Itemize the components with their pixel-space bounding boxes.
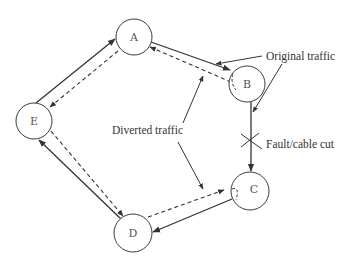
diverted-a-e [50,51,118,107]
node-b: B [229,66,265,102]
node-d: D [114,214,152,252]
ring-network-diagram: A B C D E Fault/cable cut Original traff… [0,0,345,268]
node-c: C [231,172,269,210]
fault-label: Fault/cable cut [266,138,335,150]
node-label-e: E [30,115,38,128]
diverted-traffic-label: Diverted traffic [112,124,183,136]
link-d-e [39,140,121,219]
node-a: A [116,19,152,55]
link-e-a [36,39,115,103]
link-a-b [151,42,230,70]
original-pointer-ab [216,56,262,64]
node-label-a: A [129,31,139,44]
node-e: E [16,103,52,139]
diverted-d-c [148,190,224,217]
link-c-d [153,199,232,232]
node-label-d: D [129,227,138,240]
node-label-c: C [250,183,258,196]
diverted-b-a [150,47,231,82]
node-label-b: B [243,78,251,91]
diverted-e-d [51,131,123,216]
diverted-pointer-ba [183,76,203,123]
original-traffic-label: Original traffic [266,50,335,63]
diverted-pointer-dc [178,142,203,189]
